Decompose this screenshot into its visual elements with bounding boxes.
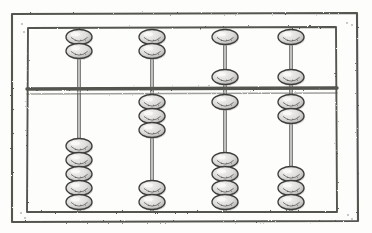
abacus-figure <box>0 0 372 233</box>
bead-texture-dot <box>75 54 76 55</box>
bead-texture-dot <box>75 163 76 164</box>
bead-texture-dot <box>158 54 159 55</box>
bead-highlight <box>71 183 80 188</box>
bead-highlight <box>144 125 153 129</box>
bead-body <box>278 167 304 182</box>
bead-highlight <box>217 183 226 188</box>
bead-highlight <box>144 197 153 202</box>
bead-body <box>66 181 92 196</box>
bead-texture-dot <box>297 177 298 178</box>
bead-highlight <box>217 155 226 160</box>
bead-texture-dot <box>75 149 76 150</box>
drawing-background <box>0 0 372 233</box>
bead-texture-dot <box>148 54 149 55</box>
corner-mark-top-left <box>21 23 23 25</box>
bead-texture-dot <box>287 40 288 41</box>
corner-mark-bottom-right <box>347 214 349 216</box>
bead-highlight <box>283 72 292 77</box>
bead-texture-dot <box>80 191 81 192</box>
bead-texture-dot <box>297 80 298 81</box>
bead-body <box>139 195 165 210</box>
bead-texture-dot <box>231 105 232 106</box>
bead-highlight <box>283 169 292 174</box>
bead-texture-dot <box>221 191 222 192</box>
bead-texture-dot <box>153 119 154 120</box>
bead-highlight <box>217 72 226 77</box>
bead-texture-dot <box>80 205 81 206</box>
bead-texture-dot <box>226 105 227 106</box>
bead-texture-dot <box>148 133 149 134</box>
bead-texture-dot <box>231 40 232 41</box>
bead-texture-dot <box>297 119 298 120</box>
bead-texture-dot <box>231 191 232 192</box>
bead-texture-dot <box>287 105 288 106</box>
abacus-drawing <box>0 0 372 233</box>
bead-body <box>139 95 165 110</box>
bead-texture-dot <box>221 205 222 206</box>
bead-body <box>278 70 304 85</box>
bead-body <box>278 95 304 110</box>
bead-body <box>212 95 238 110</box>
corner-mark-top-right-2 <box>351 24 353 26</box>
bead-texture-dot <box>231 163 232 164</box>
corner-mark-top-right <box>346 22 348 24</box>
bead-texture-dot <box>221 163 222 164</box>
bead-body <box>212 167 238 182</box>
bead-texture-dot <box>287 80 288 81</box>
corner-mark-bottom-left <box>20 212 22 214</box>
bead-body <box>139 109 165 124</box>
bead-texture-dot <box>231 177 232 178</box>
bead-texture-dot <box>287 205 288 206</box>
bead-body <box>139 123 165 138</box>
bead-texture-dot <box>297 205 298 206</box>
bead-texture-dot <box>226 191 227 192</box>
bead-texture-dot <box>226 80 227 81</box>
bead-texture-dot <box>85 191 86 192</box>
bead-body <box>212 181 238 196</box>
bead-body <box>278 181 304 196</box>
bead-texture-dot <box>292 119 293 120</box>
bead-texture-dot <box>75 205 76 206</box>
bead-texture-dot <box>292 105 293 106</box>
bead-highlight <box>217 32 226 37</box>
bead-highlight <box>217 169 226 174</box>
bead-texture-dot <box>221 80 222 81</box>
bead-texture-dot <box>158 119 159 120</box>
bead-highlight <box>144 46 153 51</box>
bead-body <box>212 153 238 168</box>
bead-texture-dot <box>148 40 149 41</box>
bead-highlight <box>283 32 292 37</box>
bead-body <box>139 30 165 45</box>
bead-texture-dot <box>226 177 227 178</box>
bead-texture-dot <box>292 177 293 178</box>
bead-highlight <box>71 32 80 37</box>
separator-bar <box>27 88 337 89</box>
bead-texture-dot <box>221 40 222 41</box>
bead-highlight <box>71 197 80 202</box>
bead-texture-dot <box>292 205 293 206</box>
bead-body <box>66 153 92 168</box>
bead-texture-dot <box>80 163 81 164</box>
bead-body <box>66 30 92 45</box>
bead-texture-dot <box>148 105 149 106</box>
bead-body <box>66 44 92 59</box>
bead-texture-dot <box>85 177 86 178</box>
bead-texture-dot <box>153 54 154 55</box>
bead-texture-dot <box>292 40 293 41</box>
bead-texture-dot <box>80 177 81 178</box>
bead-body <box>278 30 304 45</box>
bead-texture-dot <box>297 40 298 41</box>
bead-texture-dot <box>221 177 222 178</box>
bead-body <box>139 44 165 59</box>
bead-body <box>278 195 304 210</box>
bead-body <box>212 30 238 45</box>
bead-texture-dot <box>226 40 227 41</box>
bead-texture-dot <box>153 40 154 41</box>
bead-texture-dot <box>158 40 159 41</box>
bead-texture-dot <box>153 205 154 206</box>
bead-body <box>66 195 92 210</box>
bead-highlight <box>71 141 80 146</box>
bead-highlight <box>71 169 80 174</box>
bead-highlight <box>71 155 80 160</box>
bead-texture-dot <box>85 205 86 206</box>
